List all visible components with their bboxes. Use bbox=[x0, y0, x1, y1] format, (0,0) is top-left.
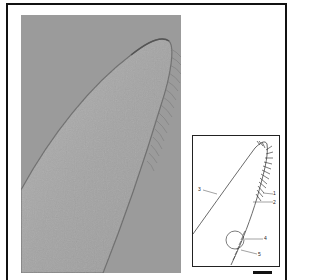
schematic-svg bbox=[193, 136, 278, 265]
micrograph-panel bbox=[21, 15, 181, 273]
scale-bar bbox=[253, 271, 272, 274]
label-2: 2 bbox=[273, 200, 276, 205]
cilia-drawing bbox=[256, 141, 273, 201]
schematic-drawing: 1 2 3 4 5 bbox=[192, 135, 280, 267]
label-4: 4 bbox=[264, 236, 267, 241]
label-5: 5 bbox=[258, 252, 261, 257]
label-3: 3 bbox=[198, 187, 201, 192]
label-1: 1 bbox=[273, 191, 276, 196]
